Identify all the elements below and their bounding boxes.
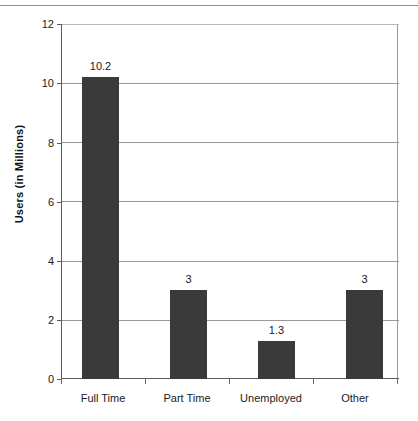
category-tick xyxy=(397,379,398,384)
category-tick xyxy=(313,379,314,384)
bar-value-unemployed: 1.3 xyxy=(242,325,311,336)
category-tick xyxy=(229,379,230,384)
category-axis: Full Time Part Time Unemployed Other xyxy=(61,379,398,421)
y-tick-label: 0 xyxy=(0,374,54,385)
y-tick-label: 2 xyxy=(0,315,54,326)
y-tick-label: 4 xyxy=(0,256,54,267)
bar-value-other: 3 xyxy=(330,274,399,285)
y-tick-label: 6 xyxy=(0,197,54,208)
category-tick xyxy=(61,379,62,384)
bar-other[interactable] xyxy=(346,290,383,379)
plot-area: 10.2 3 1.3 3 xyxy=(61,24,398,379)
category-label-unemployed: Unemployed xyxy=(229,392,313,404)
bar-unemployed[interactable] xyxy=(258,341,295,379)
category-label-part-time: Part Time xyxy=(145,392,229,404)
bar-part-time[interactable] xyxy=(170,290,207,379)
y-tick-label: 10 xyxy=(0,78,54,89)
category-tick xyxy=(145,379,146,384)
value-axis-title: Users (in Millions) xyxy=(13,119,25,229)
top-divider-rule xyxy=(0,5,418,6)
bar-full-time[interactable] xyxy=(82,77,119,379)
y-tick-label: 12 xyxy=(0,19,54,30)
category-label-other: Other xyxy=(313,392,397,404)
gridline-12 xyxy=(62,24,399,25)
y-tick-label: 8 xyxy=(0,138,54,149)
category-label-full-time: Full Time xyxy=(61,392,145,404)
bar-value-part-time: 3 xyxy=(154,274,223,285)
bar-value-full-time: 10.2 xyxy=(66,61,135,72)
bar-chart-figure: 12 10 8 6 4 2 0 Users (in Millions) xyxy=(0,0,418,421)
